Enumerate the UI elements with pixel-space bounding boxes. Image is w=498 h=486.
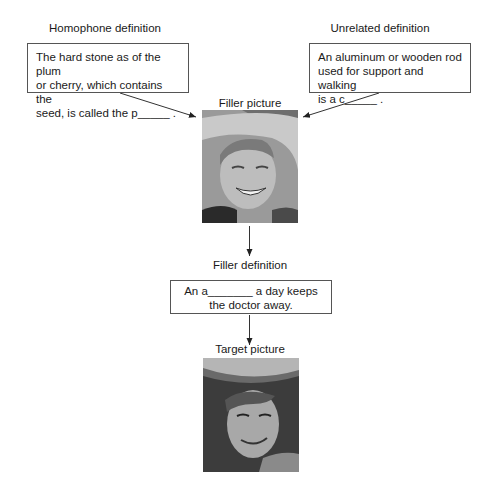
- target-picture-label: Target picture: [215, 343, 285, 355]
- homophone-definition-label: Homophone definition: [49, 22, 161, 34]
- young-man-with-hat-photo-icon: [203, 358, 299, 472]
- unrelated-definition-box: An aluminum or wooden rod used for suppo…: [309, 43, 471, 93]
- homophone-line: seed, is called the p_____ .: [36, 106, 180, 120]
- filler-definition-label: Filler definition: [213, 259, 287, 271]
- homophone-line: The hard stone as of the plum: [36, 50, 180, 78]
- homophone-line: or cherry, which contains the: [36, 78, 180, 106]
- filler-picture-label: Filler picture: [219, 97, 282, 109]
- target-picture-image: [203, 358, 299, 472]
- filler-definition-box: An a_______ a day keeps the doctor away.: [170, 280, 332, 314]
- unrelated-line: An aluminum or wooden rod: [318, 50, 462, 64]
- man-with-hat-photo-icon: [202, 110, 298, 223]
- filler-definition-line: An a_______ a day keeps: [177, 284, 325, 298]
- homophone-definition-box: The hard stone as of the plum or cherry,…: [27, 43, 189, 93]
- unrelated-line: used for support and walking: [318, 64, 462, 92]
- unrelated-definition-label: Unrelated definition: [330, 22, 429, 34]
- unrelated-line: is a c_____ .: [318, 92, 462, 106]
- filler-definition-line: the doctor away.: [177, 298, 325, 312]
- filler-picture-image: [202, 110, 298, 223]
